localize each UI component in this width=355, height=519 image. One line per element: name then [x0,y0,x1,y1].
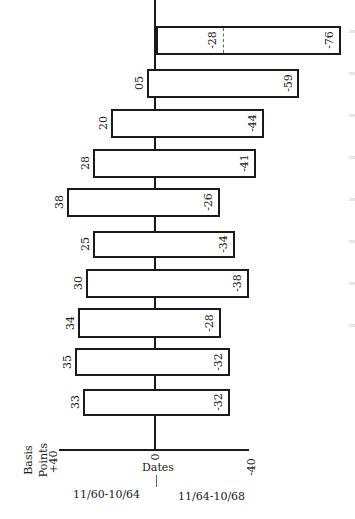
bar-6 [93,231,235,258]
period-divider-tick [156,475,157,487]
bar-9 [75,348,230,376]
bar-5-pos-label: 38 [54,195,66,209]
tick-minus40: -40 [246,458,258,476]
bar-4-neg-label: -41 [239,154,251,172]
bar-10-neg-label: -32 [213,393,225,411]
bar-9-neg-label: -32 [213,353,225,371]
bar-5-neg-label: -26 [203,193,215,211]
bar-9-pos-label: 35 [62,355,74,369]
ylabel-basis: Basis [23,445,35,474]
bar-1-inner-label: -28 [207,31,219,49]
tick-plus40: +40 [48,450,60,473]
bar-2-pos-label: 05 [134,76,146,90]
bar-6-pos-label: 25 [80,237,92,251]
bar-8 [78,308,221,338]
zero-axis-line [154,0,156,451]
cropped-edge-text [349,30,355,360]
tick-zero: 0 [150,454,162,461]
bar-5 [67,188,220,217]
bar-2 [147,69,299,98]
bar-10 [83,389,230,416]
period-2-label: 11/64-10/68 [178,490,245,503]
bar-3 [111,109,264,138]
xlabel-dates: Dates [142,461,174,474]
bar-3-neg-label: -44 [247,114,259,132]
bar-10-pos-label: 33 [70,395,82,409]
bar-7-pos-label: 30 [73,276,85,290]
inner-divider [223,28,224,53]
bar-7 [86,269,249,298]
bar-2-neg-label: -59 [283,74,295,92]
bar-1 [156,26,341,55]
bar-8-pos-label: 34 [65,316,77,330]
bar-4 [93,149,256,178]
basis-points-axis [59,449,249,451]
bar-1-neg-label: -76 [324,31,336,49]
bar-3-pos-label: 20 [98,116,110,130]
bar-6-neg-label: -34 [218,235,230,253]
bar-4-pos-label: 28 [80,156,92,170]
bar-7-neg-label: -38 [232,274,244,292]
period-1-label: 11/60-10/64 [73,488,140,501]
bar-8-neg-label: -28 [204,314,216,332]
